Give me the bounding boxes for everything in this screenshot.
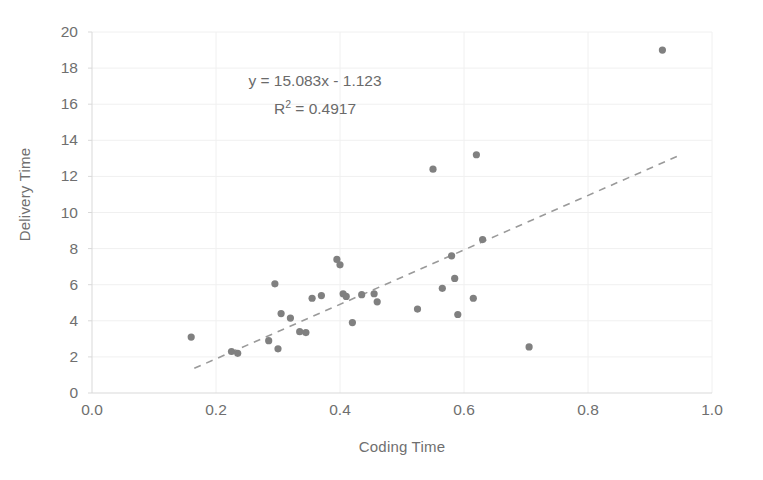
data-point — [278, 310, 285, 317]
data-point — [265, 337, 272, 344]
data-point — [526, 343, 533, 350]
data-point — [271, 280, 278, 287]
data-point — [343, 293, 350, 300]
data-point — [234, 350, 241, 357]
data-point — [448, 252, 455, 259]
data-point — [309, 295, 316, 302]
x-tick-label: 0.8 — [558, 401, 618, 419]
scatter-chart: Delivery Time Coding Time 02468101214161… — [0, 0, 763, 480]
data-point — [454, 311, 461, 318]
y-tick-label: 18 — [26, 59, 78, 77]
y-axis-title: Delivery Time — [16, 135, 33, 255]
data-point — [470, 295, 477, 302]
r-squared-label: R2 = 0.4917 — [165, 98, 465, 118]
x-tick-label: 1.0 — [682, 401, 742, 419]
data-points — [188, 46, 666, 356]
data-point — [274, 345, 281, 352]
y-tick-label: 6 — [26, 276, 78, 294]
x-tick-label: 0.6 — [434, 401, 494, 419]
y-tick-label: 14 — [26, 131, 78, 149]
trendline — [194, 156, 678, 368]
y-tick-label: 0 — [26, 384, 78, 402]
data-point — [302, 329, 309, 336]
data-point — [479, 236, 486, 243]
data-point — [451, 275, 458, 282]
tick-marks — [88, 32, 92, 393]
data-point — [358, 291, 365, 298]
y-tick-label: 20 — [26, 23, 78, 41]
data-point — [349, 319, 356, 326]
data-point — [318, 292, 325, 299]
data-point — [336, 261, 343, 268]
data-point — [287, 314, 294, 321]
x-tick-label: 0.0 — [62, 401, 122, 419]
data-point — [296, 328, 303, 335]
y-tick-label: 4 — [26, 312, 78, 330]
data-point — [473, 151, 480, 158]
y-tick-label: 10 — [26, 204, 78, 222]
y-tick-label: 16 — [26, 95, 78, 113]
x-tick-label: 0.4 — [310, 401, 370, 419]
data-point — [374, 298, 381, 305]
r-squared-value: = 0.4917 — [291, 100, 356, 117]
r-squared-prefix: R — [274, 100, 285, 117]
data-point — [188, 333, 195, 340]
y-tick-label: 12 — [26, 167, 78, 185]
data-point — [659, 46, 666, 53]
data-point — [371, 290, 378, 297]
y-tick-label: 2 — [26, 348, 78, 366]
data-point — [439, 285, 446, 292]
x-tick-label: 0.2 — [186, 401, 246, 419]
trendline-segment — [194, 156, 678, 368]
regression-equation-label: y = 15.083x - 1.123 — [165, 72, 465, 90]
y-tick-label: 8 — [26, 240, 78, 258]
data-point — [414, 305, 421, 312]
data-point — [228, 348, 235, 355]
data-point — [429, 166, 436, 173]
x-axis-title: Coding Time — [92, 438, 712, 455]
